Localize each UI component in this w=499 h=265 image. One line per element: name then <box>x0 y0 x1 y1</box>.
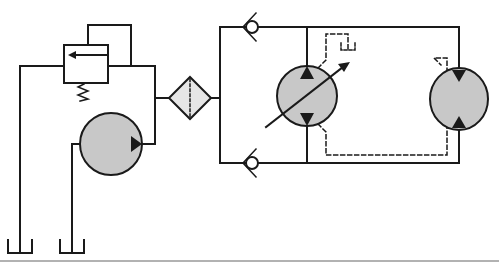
pump-outlet-line <box>142 98 155 144</box>
main-loop <box>220 27 459 163</box>
bottom-rail <box>258 128 459 163</box>
pressure-line <box>108 66 170 98</box>
relief-valve <box>64 45 108 101</box>
filter <box>169 77 220 119</box>
check-valve-top <box>243 13 258 41</box>
pump <box>72 98 155 253</box>
fixed-motor <box>430 68 488 130</box>
relief-return-line <box>20 66 64 253</box>
hydraulic-circuit-diagram: Hydraulic circuit: pump with relief valv… <box>0 0 499 265</box>
pump-suction-line <box>72 144 80 253</box>
drain-line-top <box>318 34 348 68</box>
check-valve-bottom <box>243 149 258 177</box>
variable-motor <box>266 62 350 127</box>
spring-icon <box>78 84 88 101</box>
top-rail <box>258 27 459 70</box>
